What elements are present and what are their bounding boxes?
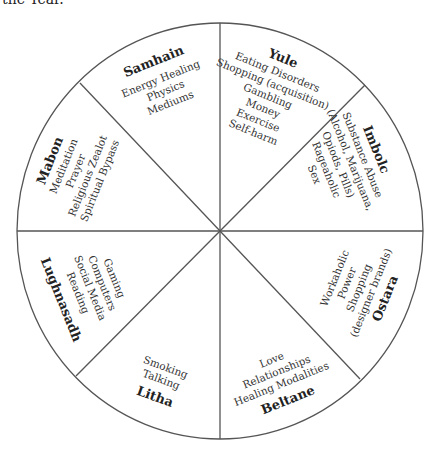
segment-lughnasadh: Gaming Computers Social Media Reading Lu… (38, 234, 137, 344)
segment-samhain: Samhain Energy Healing Physics Mediums (112, 38, 211, 123)
segment-ostara: Workaholic Power Shopping (designer bran… (311, 232, 410, 345)
segment-litha: Smoking Talking Litha (131, 353, 191, 411)
segment-imbolc: Imbolc Substance Abuse (Alcohol, Marijua… (289, 96, 404, 226)
wheel-outline (17, 23, 423, 439)
wheel-of-the-year: Samhain Energy Healing Physics Mediums Y… (0, 0, 440, 458)
